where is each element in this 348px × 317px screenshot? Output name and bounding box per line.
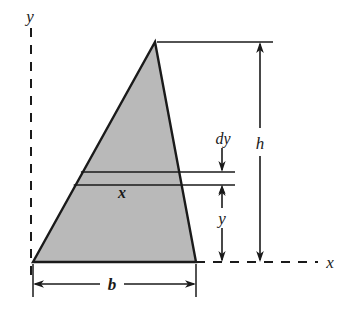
triangle-shape xyxy=(33,42,196,262)
figure-container: y x h y dy b x xyxy=(0,0,348,317)
strip-width-label: x xyxy=(117,184,126,201)
height-dimension-label: h xyxy=(256,134,265,153)
x-axis-label: x xyxy=(325,253,334,272)
triangle-area-diagram: y x h y dy b x xyxy=(0,0,348,317)
strip-height-label: y xyxy=(216,209,226,228)
strip-thickness-label: dy xyxy=(215,130,231,148)
y-axis-label: y xyxy=(24,7,34,26)
base-dimension-label: b xyxy=(108,275,117,294)
